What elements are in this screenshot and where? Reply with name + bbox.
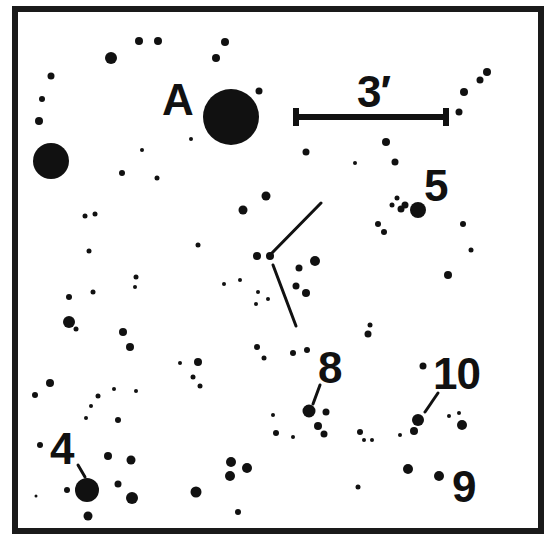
chart-frame — [12, 6, 544, 534]
label-10: 10 — [433, 352, 480, 396]
label-9: 9 — [452, 465, 475, 509]
scale-bar-label: 3′ — [357, 70, 390, 114]
label-A: A — [162, 78, 193, 122]
label-5: 5 — [424, 164, 447, 208]
label-8: 8 — [318, 346, 341, 390]
label-4: 4 — [50, 427, 73, 471]
